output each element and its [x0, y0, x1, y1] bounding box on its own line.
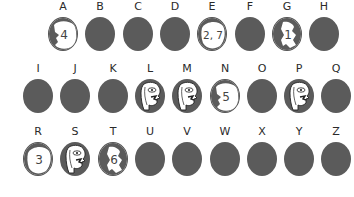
letter-label: I — [20, 62, 56, 75]
letter-cell-t[interactable]: T6 — [95, 125, 131, 185]
letter-label: T — [95, 125, 131, 138]
letter-label: F — [232, 0, 268, 13]
letter-label: J — [57, 62, 93, 75]
letter-label: U — [132, 125, 168, 138]
letter-label: C — [120, 0, 156, 13]
letter-cell-o[interactable]: O — [244, 62, 280, 122]
letter-cell-d[interactable]: D — [157, 0, 193, 60]
blank-disc[interactable] — [98, 79, 128, 113]
blank-disc[interactable] — [160, 17, 190, 51]
disc-number: 3 — [24, 143, 53, 176]
letter-cell-v[interactable]: V — [169, 125, 205, 185]
letter-label: Y — [281, 125, 317, 138]
blank-disc[interactable] — [321, 142, 351, 176]
face-disc[interactable] — [172, 79, 202, 113]
disc-number: 5 — [211, 80, 240, 113]
letter-cell-s[interactable]: S — [57, 125, 93, 185]
letter-label: Z — [318, 125, 354, 138]
blank-disc[interactable] — [135, 142, 165, 176]
letter-label: O — [244, 62, 280, 75]
disc-number: 6 — [99, 143, 128, 176]
letter-cell-h[interactable]: H — [306, 0, 342, 60]
disc-number: 1 — [273, 18, 302, 51]
blank-disc[interactable] — [23, 79, 53, 113]
letter-cell-l[interactable]: L — [132, 62, 168, 122]
blank-disc[interactable] — [309, 17, 339, 51]
blank-disc[interactable] — [284, 142, 314, 176]
disc-number: 2, 7 — [198, 18, 227, 51]
letter-cell-z[interactable]: Z — [318, 125, 354, 185]
letter-cell-u[interactable]: U — [132, 125, 168, 185]
letter-label: H — [306, 0, 342, 13]
letter-label: G — [269, 0, 305, 13]
letter-cell-c[interactable]: C — [120, 0, 156, 60]
letter-cell-q[interactable]: Q — [318, 62, 354, 122]
letter-cell-n[interactable]: N5 — [207, 62, 243, 122]
letter-label: Q — [318, 62, 354, 75]
letter-cell-y[interactable]: Y — [281, 125, 317, 185]
face-illustration-icon — [172, 79, 202, 113]
face-illustration-icon — [60, 142, 90, 176]
letter-cell-b[interactable]: B — [82, 0, 118, 60]
letter-label: W — [207, 125, 243, 138]
letter-cell-j[interactable]: J — [57, 62, 93, 122]
letter-label: N — [207, 62, 243, 75]
face-illustration-icon — [135, 79, 165, 113]
letter-cell-p[interactable]: P — [281, 62, 317, 122]
blank-disc[interactable] — [85, 17, 115, 51]
blank-disc[interactable] — [247, 79, 277, 113]
letter-label: K — [95, 62, 131, 75]
letter-label: P — [281, 62, 317, 75]
disc-number: 4 — [49, 18, 78, 51]
numbered-disc[interactable]: 1 — [272, 17, 302, 51]
letter-cell-e[interactable]: E2, 7 — [194, 0, 230, 60]
blank-disc[interactable] — [247, 142, 277, 176]
blank-disc[interactable] — [60, 79, 90, 113]
blank-disc[interactable] — [123, 17, 153, 51]
letter-label: M — [169, 62, 205, 75]
letter-cell-i[interactable]: I — [20, 62, 56, 122]
blank-disc[interactable] — [210, 142, 240, 176]
letter-label: E — [194, 0, 230, 13]
letter-label: D — [157, 0, 193, 13]
numbered-disc[interactable]: 3 — [23, 142, 53, 176]
letter-cell-x[interactable]: X — [244, 125, 280, 185]
letter-label: V — [169, 125, 205, 138]
letter-cell-g[interactable]: G1 — [269, 0, 305, 60]
face-disc[interactable] — [135, 79, 165, 113]
face-disc[interactable] — [284, 79, 314, 113]
letter-label: X — [244, 125, 280, 138]
numbered-disc[interactable]: 5 — [210, 79, 240, 113]
blank-disc[interactable] — [172, 142, 202, 176]
letter-cell-f[interactable]: F — [232, 0, 268, 60]
numbered-disc[interactable]: 4 — [48, 17, 78, 51]
letter-label: L — [132, 62, 168, 75]
numbered-disc[interactable]: 6 — [98, 142, 128, 176]
letter-cell-r[interactable]: R3 — [20, 125, 56, 185]
face-disc[interactable] — [60, 142, 90, 176]
blank-disc[interactable] — [235, 17, 265, 51]
letter-cell-k[interactable]: K — [95, 62, 131, 122]
letter-cell-m[interactable]: M — [169, 62, 205, 122]
letter-label: S — [57, 125, 93, 138]
letter-label: R — [20, 125, 56, 138]
letter-cell-a[interactable]: A4 — [45, 0, 81, 60]
letter-label: A — [45, 0, 81, 13]
face-illustration-icon — [284, 79, 314, 113]
blank-disc[interactable] — [321, 79, 351, 113]
numbered-disc[interactable]: 2, 7 — [197, 17, 227, 51]
letter-cell-w[interactable]: W — [207, 125, 243, 185]
letter-label: B — [82, 0, 118, 13]
